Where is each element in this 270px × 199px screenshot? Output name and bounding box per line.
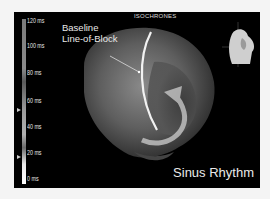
rhythm-label: Sinus Rhythm	[173, 165, 254, 180]
torso-orientation-icon	[14, 12, 260, 188]
isochrone-map-panel: ISOCHRONES 120 ms 100 ms 80 ms 60 ms 40 …	[14, 12, 260, 188]
